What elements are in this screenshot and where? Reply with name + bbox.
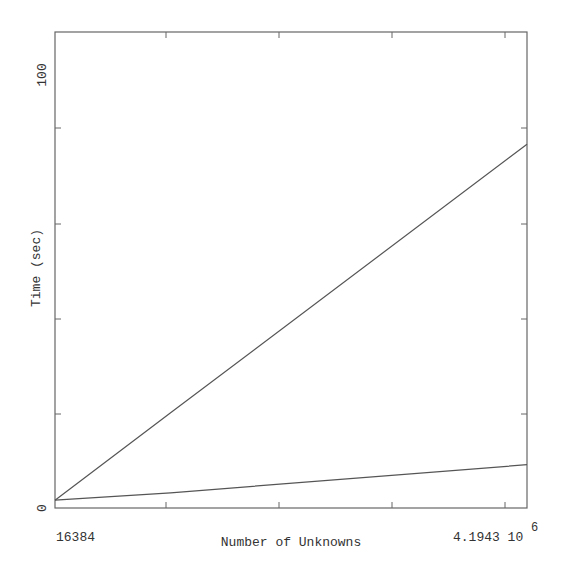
x-tick-label-right: 4.1943 10: [453, 530, 523, 545]
y-ticks-right: [521, 128, 527, 414]
x-tick-label-left: 16384: [56, 530, 95, 545]
x-ticks-bottom: [166, 502, 505, 508]
x-tick-label-exponent: 6: [531, 521, 538, 535]
y-tick-label-zero: 0: [35, 504, 50, 512]
plot-frame: [55, 32, 527, 508]
y-axis-title: Time (sec): [29, 229, 44, 307]
line-chart: 0 100 Time (sec) 16384 4.1943 10 6 Numbe…: [0, 0, 571, 572]
y-ticks-left: [55, 128, 61, 414]
series-lower-line: [55, 465, 527, 501]
y-tick-label-top: 100: [35, 63, 50, 86]
x-axis-title: Number of Unknowns: [221, 535, 361, 550]
series-upper-line: [55, 144, 527, 500]
x-ticks-top: [166, 32, 505, 38]
